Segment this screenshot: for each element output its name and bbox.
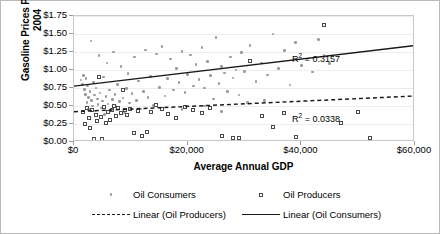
chart-legend: Oil Consumers Oil Producers Linear (Oil …: [89, 189, 389, 220]
legend-label-linear-oil-producers: Linear (Oil Producers): [133, 209, 226, 220]
legend-item-oil-producers: Oil Producers: [239, 189, 389, 200]
trendline-oil-producers: [74, 96, 413, 112]
x-tick-label: $60,000: [384, 144, 440, 155]
y-tick-label: $1.75: [21, 10, 67, 19]
legend-key-solid-line-icon: [239, 214, 283, 215]
x-tick-mark: [73, 141, 74, 145]
legend-item-oil-consumers: Oil Consumers: [89, 189, 239, 200]
x-tick-mark: [414, 141, 415, 145]
x-axis-title: Average Annual GDP: [73, 161, 414, 172]
x-tick-mark: [300, 141, 301, 145]
legend-item-linear-oil-producers: Linear (Oil Producers): [89, 209, 239, 220]
trendline-oil-consumers: [74, 46, 413, 86]
trendlines: [74, 16, 413, 140]
y-tick-label: $0.50: [21, 100, 67, 109]
x-tick-label: $40,000: [270, 144, 330, 155]
legend-label-oil-consumers: Oil Consumers: [133, 189, 196, 200]
plot-area: R2 = 0.3157 R2 = 0.0338: [73, 15, 414, 141]
legend-key-square-icon: [239, 193, 283, 197]
y-tick-label: $1.25: [21, 46, 67, 55]
y-tick-label: $0.25: [21, 118, 67, 127]
r2-label-producers: R2 = 0.0338: [292, 112, 340, 124]
y-tick-label: $0.75: [21, 82, 67, 91]
y-tick-label: $1.50: [21, 28, 67, 37]
x-tick-label: $0: [43, 144, 103, 155]
legend-key-dot-icon: [89, 193, 133, 196]
legend-key-dashed-line-icon: [89, 214, 133, 215]
legend-label-oil-producers: Oil Producers: [283, 189, 341, 200]
scatter-chart: Gasoline Prices Per Liter - 2004 $0.00$0…: [0, 0, 440, 234]
r2-label-consumers: R2 = 0.3157: [292, 52, 340, 64]
r2-consumers-value: = 0.3157: [302, 54, 340, 64]
y-tick-label: $1.00: [21, 64, 67, 73]
legend-item-linear-oil-consumers: Linear (Oil Consumers): [239, 209, 389, 220]
r2-producers-value: = 0.0338: [302, 114, 340, 124]
x-tick-label: $20,000: [157, 144, 217, 155]
x-tick-mark: [187, 141, 188, 145]
legend-label-linear-oil-consumers: Linear (Oil Consumers): [283, 209, 381, 220]
